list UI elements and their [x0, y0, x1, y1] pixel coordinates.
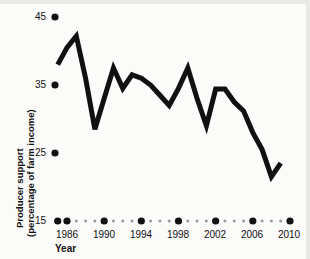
line-chart-plot: [0, 0, 310, 259]
x-tick-label-1990: 1990: [86, 230, 122, 240]
y-axis-title-line2: (percentage of farm income): [25, 109, 36, 237]
x-tick-label-1986: 1986: [49, 230, 85, 240]
chart-figure: 45 35 25 15 1986 1990 1994 1998 2002 200…: [0, 0, 310, 259]
x-tick-label-2010: 2010: [271, 230, 307, 240]
producer-support-line: [58, 36, 281, 177]
y-tick-label-35: 35: [24, 80, 46, 90]
x-axis-title: Year: [55, 243, 76, 254]
y-axis-tick-dots: [51, 13, 58, 156]
x-tick-label-2002: 2002: [197, 230, 233, 240]
x-tick-label-1994: 1994: [123, 230, 159, 240]
x-tick-label-1998: 1998: [160, 230, 196, 240]
y-axis-title-line1: Producer support: [14, 148, 25, 228]
y-tick-label-45: 45: [24, 12, 46, 22]
x-tick-label-2006: 2006: [234, 230, 270, 240]
x-axis-major-tick-dots: [54, 217, 293, 224]
